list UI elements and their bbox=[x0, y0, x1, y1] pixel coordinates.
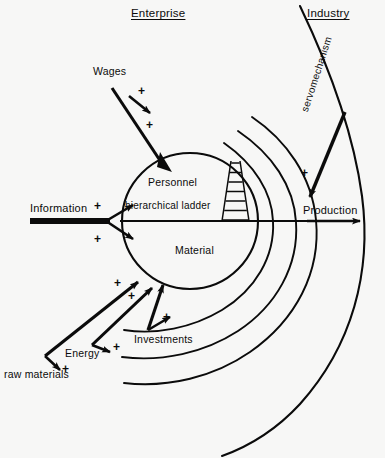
diagram-vector-layer bbox=[0, 0, 385, 458]
servomechanism-arrow bbox=[310, 112, 345, 197]
sign-plus-investments: + bbox=[163, 311, 170, 323]
input-label-wages: Wages bbox=[93, 66, 126, 77]
core-label-hierarchical-ladder: hierarchical ladder bbox=[125, 201, 211, 211]
input-label-information: Information bbox=[30, 203, 87, 214]
output-label-production: Production bbox=[303, 205, 358, 216]
sign-plus-energy-head: + bbox=[128, 290, 135, 302]
spiral-arc-4 bbox=[124, 143, 273, 332]
core-label-material: Material bbox=[175, 245, 214, 256]
sign-plus-servomechanism: + bbox=[301, 167, 308, 179]
wages-arrow bbox=[112, 88, 165, 168]
sign-plus-raw-materials-tail: + bbox=[62, 363, 69, 375]
input-label-raw-materials: raw materials bbox=[4, 369, 69, 380]
sign-plus-energy-tail: + bbox=[113, 341, 120, 353]
region-label-industry: Industry bbox=[307, 8, 350, 20]
sign-plus-information-upper: + bbox=[94, 200, 101, 212]
sign-plus-raw-materials-head: + bbox=[114, 277, 121, 289]
input-label-investments: Investments bbox=[134, 334, 193, 345]
spiral-arc-outer bbox=[222, 6, 364, 456]
sign-plus-wages-inner: + bbox=[146, 119, 153, 131]
diagram-canvas: Enterprise Industry Wages Information In… bbox=[0, 0, 385, 458]
sign-plus-information-lower: + bbox=[94, 233, 101, 245]
region-label-enterprise: Enterprise bbox=[131, 8, 185, 20]
core-label-personnel: Personnel bbox=[148, 177, 197, 188]
sign-plus-wages-outer: + bbox=[138, 85, 145, 97]
spiral-arc-group bbox=[122, 6, 364, 456]
input-label-energy: Energy bbox=[65, 348, 99, 359]
